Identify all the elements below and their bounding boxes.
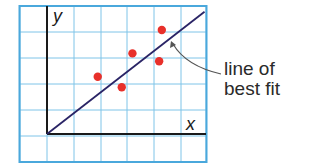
annotation-line-1: line of bbox=[224, 59, 280, 79]
data-point bbox=[158, 26, 166, 34]
data-point bbox=[94, 73, 102, 81]
x-axis-label: x bbox=[185, 114, 196, 134]
line-of-best-fit-annotation: line of best fit bbox=[224, 59, 280, 99]
data-point bbox=[155, 57, 163, 65]
annotation-line-2: best fit bbox=[224, 79, 280, 99]
annotation-arrow bbox=[173, 44, 221, 74]
y-axis-label: y bbox=[51, 6, 63, 26]
data-points bbox=[94, 26, 166, 92]
data-point bbox=[128, 49, 136, 57]
data-point bbox=[118, 83, 126, 91]
